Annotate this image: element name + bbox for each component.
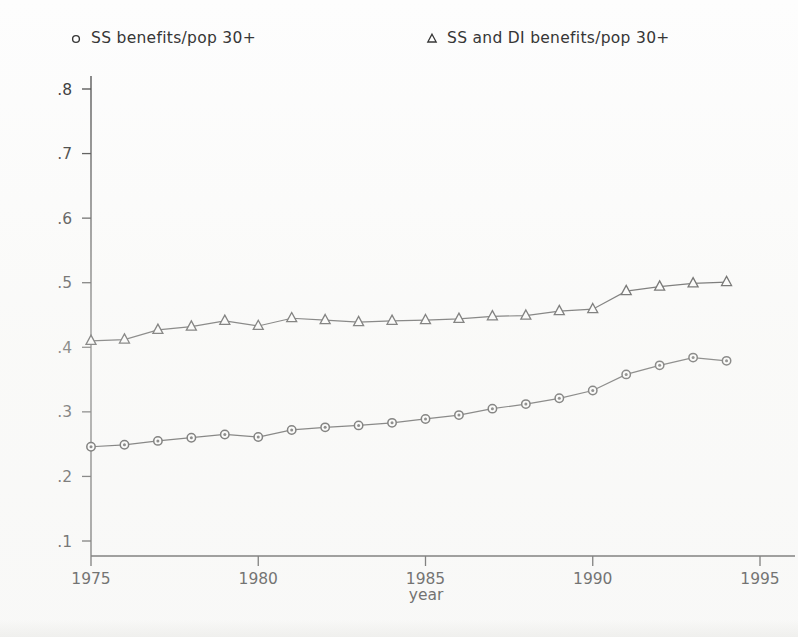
data-point-marker bbox=[487, 311, 497, 320]
series-line bbox=[91, 282, 727, 341]
data-point-marker-center bbox=[524, 403, 527, 406]
data-point-marker-center bbox=[625, 373, 628, 376]
data-point-marker-center bbox=[591, 389, 594, 392]
data-point-marker bbox=[554, 305, 564, 314]
data-point-marker bbox=[722, 276, 732, 285]
x-axis-tick-label: 1975 bbox=[71, 570, 110, 588]
data-point-marker bbox=[153, 324, 163, 333]
data-point-marker bbox=[86, 335, 96, 344]
chart-series bbox=[87, 353, 731, 451]
chart-figure: SS benefits/pop 30+ SS and DI benefits/p… bbox=[0, 0, 798, 637]
x-axis: 19751980198519901995 year bbox=[71, 556, 795, 604]
data-point-marker bbox=[287, 313, 297, 322]
data-point-marker-center bbox=[156, 439, 159, 442]
chart-series bbox=[86, 276, 732, 344]
chart-plot-area: .1.2.3.4.5.6.7.8 19751980198519901995 ye… bbox=[0, 0, 798, 637]
data-point-marker bbox=[320, 314, 330, 323]
data-point-marker bbox=[621, 285, 631, 294]
data-point-marker bbox=[421, 314, 431, 323]
data-point-marker-center bbox=[257, 436, 260, 439]
y-axis-tick-label: .6 bbox=[57, 210, 72, 228]
y-axis-tick-label: .4 bbox=[57, 339, 72, 357]
y-axis-tick-label: .7 bbox=[57, 145, 72, 163]
data-point-marker-center bbox=[491, 407, 494, 410]
y-axis: .1.2.3.4.5.6.7.8 bbox=[57, 76, 91, 556]
data-point-marker-center bbox=[123, 443, 126, 446]
data-point-marker bbox=[588, 303, 598, 312]
data-point-marker-center bbox=[457, 414, 460, 417]
data-point-marker-center bbox=[692, 356, 695, 359]
y-axis-tick-label: .5 bbox=[57, 274, 72, 292]
data-point-marker-center bbox=[658, 364, 661, 367]
y-axis-ticks: .1.2.3.4.5.6.7.8 bbox=[57, 81, 91, 551]
data-point-marker bbox=[220, 315, 230, 324]
data-point-marker-center bbox=[223, 433, 226, 436]
x-axis-tick-label: 1990 bbox=[573, 570, 612, 588]
data-point-marker bbox=[454, 313, 464, 322]
x-axis-tick-label: 1995 bbox=[740, 570, 779, 588]
series-line bbox=[91, 358, 727, 447]
data-point-marker-center bbox=[290, 428, 293, 431]
data-point-marker bbox=[521, 310, 531, 319]
chart-series-layer bbox=[86, 276, 732, 451]
y-axis-tick-label: .1 bbox=[57, 533, 72, 551]
data-point-marker-center bbox=[725, 359, 728, 362]
y-axis-tick-label: .3 bbox=[57, 403, 72, 421]
x-axis-title: year bbox=[409, 586, 444, 604]
data-point-marker bbox=[655, 281, 665, 290]
data-point-marker bbox=[354, 316, 364, 325]
y-axis-tick-label: .8 bbox=[57, 81, 72, 99]
y-axis-tick-label: .2 bbox=[57, 468, 72, 486]
data-point-marker-center bbox=[424, 417, 427, 420]
data-point-marker-center bbox=[90, 445, 93, 448]
data-point-marker-center bbox=[391, 421, 394, 424]
data-point-marker bbox=[688, 278, 698, 287]
data-point-marker-center bbox=[190, 436, 193, 439]
x-axis-tick-label: 1980 bbox=[239, 570, 278, 588]
data-point-marker bbox=[387, 315, 397, 324]
x-axis-ticks: 19751980198519901995 bbox=[71, 556, 779, 588]
data-point-marker-center bbox=[324, 426, 327, 429]
data-point-marker-center bbox=[357, 424, 360, 427]
data-point-marker-center bbox=[558, 397, 561, 400]
